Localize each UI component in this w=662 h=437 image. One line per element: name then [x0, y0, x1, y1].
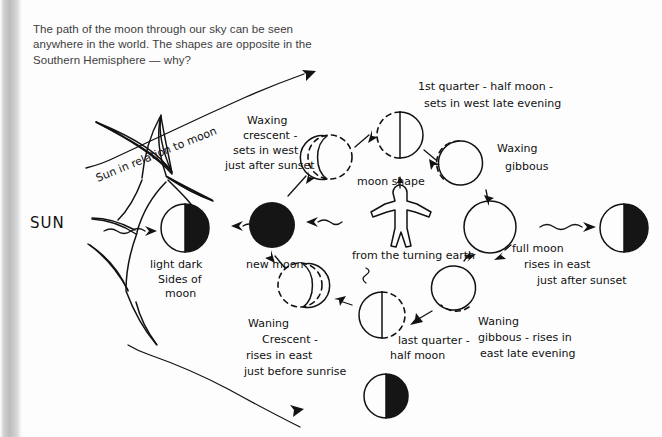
svg-text:east late evening: east late evening	[480, 347, 575, 360]
phase-new-moon	[249, 202, 295, 248]
svg-text:moon: moon	[165, 287, 196, 300]
label-waxing-crescent: Waxing crescent - sets in west just afte…	[224, 114, 315, 172]
svg-text:just after sunset: just after sunset	[224, 159, 315, 172]
moon-phase-diagram: SUN Sun in relation to moon light dark	[0, 0, 662, 437]
label-waxing-gibbous: Waxing gibbous	[497, 142, 549, 173]
page-canvas: The path of the moon through our sky can…	[0, 0, 662, 437]
phase-first-quarter	[377, 112, 423, 158]
svg-text:from the turning earth: from the turning earth	[352, 249, 475, 262]
arrow-fullmoon-to-right-halfmoon	[540, 222, 596, 232]
label-waning-crescent: Waning Crescent - rises in east just bef…	[243, 317, 346, 378]
phase-half-moon-bottom	[364, 374, 408, 418]
svg-text:crescent -: crescent -	[243, 129, 297, 142]
label-waning-gibbous: Waning gibbous - rises in east late even…	[478, 315, 575, 360]
svg-text:gibbous - rises in: gibbous - rises in	[478, 331, 572, 344]
svg-text:rises in east: rises in east	[246, 349, 313, 362]
arrow-newmoon-to-waxing-crescent	[288, 171, 315, 196]
svg-text:Crescent -: Crescent -	[262, 333, 318, 346]
svg-text:sets in west late evening: sets in west late evening	[424, 97, 561, 110]
svg-text:gibbous: gibbous	[505, 160, 549, 173]
label-new-moon: new moon	[246, 258, 303, 271]
arrow-gibbous-to-lastquarter	[410, 311, 432, 325]
phase-half-moon-right-edge	[600, 204, 648, 252]
phase-waxing-gibbous	[437, 141, 483, 185]
phase-light-dark-sides	[161, 204, 209, 252]
svg-text:Waxing: Waxing	[247, 114, 287, 127]
observer-brace	[363, 268, 369, 283]
svg-text:1st quarter - half moon -: 1st quarter - half moon -	[418, 80, 553, 93]
arrow-lastquarter-to-waning-crescent	[334, 296, 352, 306]
svg-text:light dark: light dark	[150, 258, 203, 271]
svg-text:Waxing: Waxing	[497, 142, 537, 155]
svg-text:Sides of: Sides of	[158, 273, 203, 286]
phase-full-moon	[464, 201, 516, 253]
arrow-crescent-to-firstquarter	[355, 130, 378, 147]
svg-text:just after sunset: just after sunset	[536, 274, 627, 287]
arrow-gibbous-to-fullmoon	[484, 190, 494, 206]
sun-relation-label: Sun in relation to moon	[94, 124, 219, 184]
observer-figure	[371, 185, 431, 247]
label-light-dark-sides: light dark Sides of moon	[150, 258, 203, 300]
label-first-quarter: 1st quarter - half moon - sets in west l…	[418, 80, 561, 110]
svg-text:rises in east: rises in east	[524, 258, 591, 271]
svg-text:Waning: Waning	[248, 317, 289, 330]
svg-text:sets in west: sets in west	[233, 144, 299, 157]
wiggle-connector-left	[306, 217, 342, 227]
svg-text:just before sunrise: just before sunrise	[243, 365, 346, 378]
svg-text:last quarter -: last quarter -	[398, 334, 470, 347]
observer-label-above: moon shape	[357, 175, 425, 188]
svg-text:Sun in relation to moon: Sun in relation to moon	[94, 124, 219, 184]
sun-label: SUN	[30, 214, 65, 232]
svg-text:half moon: half moon	[390, 349, 445, 362]
svg-text:full moon: full moon	[512, 242, 564, 255]
phase-last-quarter	[359, 292, 405, 338]
observer-label-below: from the turning earth	[352, 249, 475, 262]
label-full-moon: full moon rises in east just after sunse…	[494, 242, 627, 287]
phase-waning-gibbous	[431, 266, 475, 311]
phase-waxing-crescent	[300, 135, 352, 180]
label-last-quarter: last quarter - half moon	[390, 334, 470, 362]
svg-text:Waning: Waning	[478, 315, 519, 328]
